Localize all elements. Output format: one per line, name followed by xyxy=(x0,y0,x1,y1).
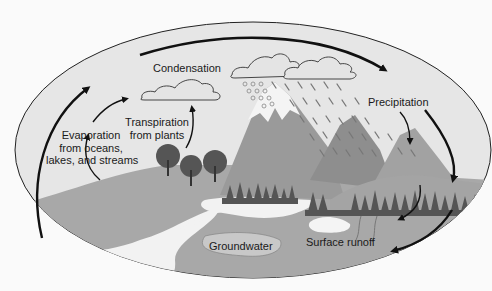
water-cycle-diagram: Condensation Precipitation Evaporation f… xyxy=(0,0,492,291)
label-evaporation-line3: lakes, and streams xyxy=(46,154,136,167)
label-precipitation: Precipitation xyxy=(368,96,429,109)
label-groundwater: Groundwater xyxy=(209,240,273,253)
label-transpiration: Transpiration from plants xyxy=(122,116,192,141)
label-transpiration-line1: Transpiration xyxy=(122,116,192,129)
label-transpiration-line2: from plants xyxy=(122,129,192,142)
label-evaporation-line2: from oceans, xyxy=(46,142,136,155)
label-surface-runoff: Surface runoff xyxy=(306,236,375,249)
label-condensation: Condensation xyxy=(153,62,221,75)
